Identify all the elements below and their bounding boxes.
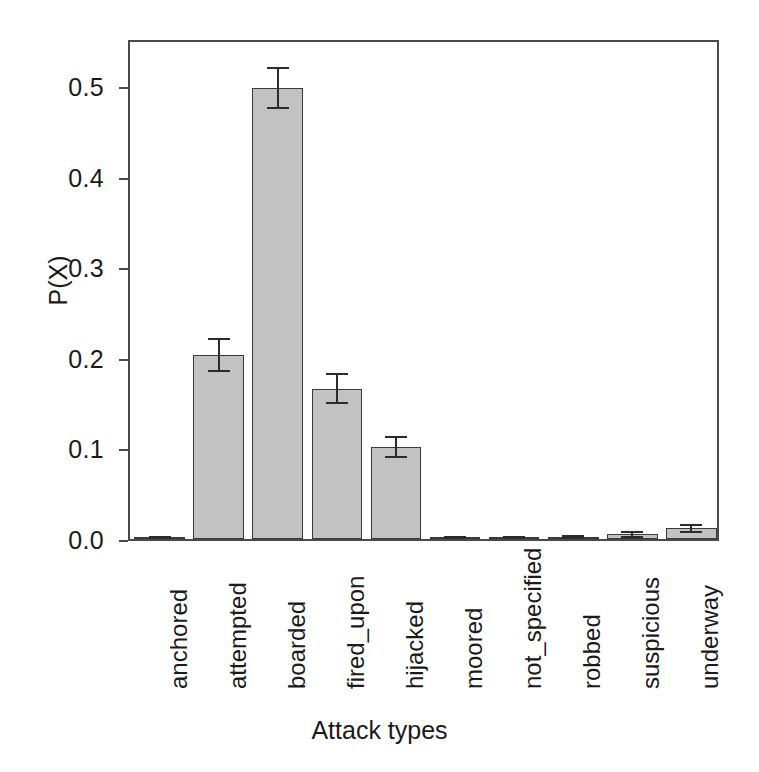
x-tick-label-not_specified: not_specified (521, 548, 545, 689)
x-tick-label-hijacked: hijacked (403, 601, 427, 689)
x-tick-label-moored: moored (462, 608, 486, 689)
error-bar-cap-upper (385, 436, 407, 438)
y-tick-mark (119, 178, 128, 180)
y-tick-label: 0.3 (4, 256, 104, 281)
error-bar-cap-lower (385, 456, 407, 458)
y-tick-label: 0.2 (4, 347, 104, 372)
plot-area (128, 40, 719, 541)
y-tick-mark (119, 268, 128, 270)
error-bar-cap-upper (621, 531, 643, 533)
x-tick-label-anchored: anchored (167, 589, 191, 689)
error-bar-cap-lower (621, 536, 643, 538)
x-tick-label-suspicious: suspicious (639, 577, 663, 689)
error-bar-underway (666, 525, 717, 539)
error-bar-cap-lower (444, 537, 466, 539)
error-bar-cap-lower (503, 537, 525, 539)
y-tick-label: 0.4 (4, 166, 104, 191)
x-tick-label-underway: underway (698, 585, 722, 689)
error-bar-cap-lower (326, 402, 348, 404)
error-bar-robbed (548, 536, 599, 539)
error-bar-cap-lower (208, 370, 230, 372)
y-tick-label: 0.0 (4, 528, 104, 553)
y-tick-label: 0.5 (4, 75, 104, 100)
error-bar-cap-lower (680, 531, 702, 533)
error-bar-hijacked (371, 437, 422, 539)
error-bar-fired_upon (312, 374, 363, 539)
x-axis-title: Attack types (0, 716, 759, 744)
bar-chart-figure: P(X) 0.00.10.20.30.40.5 anchoredattempte… (0, 0, 759, 772)
x-tick-label-attempted: attempted (226, 582, 250, 689)
y-tick-mark (119, 87, 128, 89)
error-bar-cap-upper (267, 67, 289, 69)
x-tick-label-boarded: boarded (285, 601, 309, 689)
x-tick-label-robbed: robbed (580, 614, 604, 689)
y-tick-mark (119, 540, 128, 542)
error-bar-cap-lower (267, 107, 289, 109)
error-bar-line (336, 374, 338, 403)
error-bar-cap-upper (208, 338, 230, 340)
error-bar-attempted (193, 339, 244, 539)
error-bar-moored (430, 537, 481, 539)
error-bar-line (395, 437, 397, 457)
y-tick-mark (119, 449, 128, 451)
error-bar-anchored (134, 537, 185, 539)
error-bar-line (218, 339, 220, 372)
error-bar-suspicious (607, 532, 658, 539)
y-tick-label: 0.1 (4, 437, 104, 462)
error-bar-boarded (252, 68, 303, 539)
error-bar-cap-lower (562, 537, 584, 539)
y-tick-mark (119, 359, 128, 361)
error-bar-cap-upper (680, 524, 702, 526)
x-tick-label-fired_upon: fired_upon (344, 576, 368, 689)
error-bar-line (277, 68, 279, 108)
error-bar-cap-lower (149, 537, 171, 539)
error-bar-cap-upper (326, 373, 348, 375)
error-bar-not_specified (489, 537, 540, 539)
